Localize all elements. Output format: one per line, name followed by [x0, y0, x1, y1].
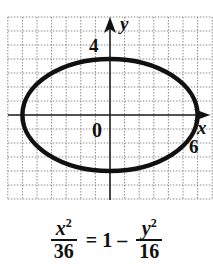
y-fraction-numerator: y2 — [139, 218, 160, 239]
minus-sign: – — [117, 229, 127, 252]
x-fraction-numerator: x2 — [53, 218, 75, 239]
x-variable: x — [56, 217, 66, 239]
x-axis-label: x — [197, 118, 207, 137]
ellipse-equation: x2 36 = 1 – y2 16 — [0, 215, 213, 265]
y-variable: y — [142, 217, 151, 239]
y-fraction-denominator: 16 — [136, 241, 162, 262]
x-fraction: x2 36 — [51, 218, 77, 262]
y-axis-label: y — [120, 14, 128, 33]
ellipse-graph: 4 y 0 x 6 — [0, 0, 213, 210]
coordinate-plane — [0, 0, 213, 210]
x-exponent: 2 — [66, 216, 72, 230]
constant-one: 1 — [102, 229, 112, 252]
y-intercept-label: 4 — [89, 36, 99, 55]
equals-sign: = — [86, 229, 97, 252]
x-intercept-label: 6 — [189, 137, 199, 156]
origin-label: 0 — [92, 120, 102, 140]
x-fraction-denominator: 36 — [51, 241, 77, 262]
y-exponent: 2 — [151, 216, 157, 230]
y-fraction: y2 16 — [136, 218, 162, 262]
